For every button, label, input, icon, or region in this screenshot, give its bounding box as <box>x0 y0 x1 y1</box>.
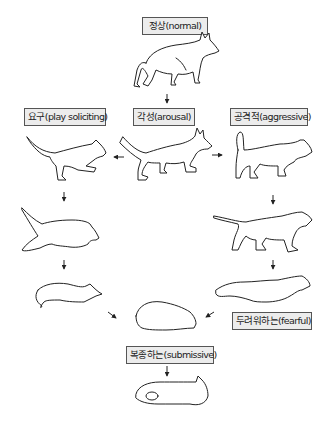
dog-play-crouch-icon <box>22 208 99 251</box>
dog-submissive-lying-icon <box>136 376 208 405</box>
dog-normal-icon <box>134 32 219 87</box>
dog-arousal-icon <box>120 128 212 180</box>
dog-submissive-crouch-icon <box>136 302 196 330</box>
dog-aggressive-stalk-icon <box>214 212 312 252</box>
diagram-canvas <box>0 0 334 425</box>
dog-fearful-icon <box>216 276 310 302</box>
dog-play-bow-icon <box>36 283 102 307</box>
dog-play-soliciting-icon <box>27 137 106 180</box>
dog-aggressive-icon <box>236 132 312 178</box>
